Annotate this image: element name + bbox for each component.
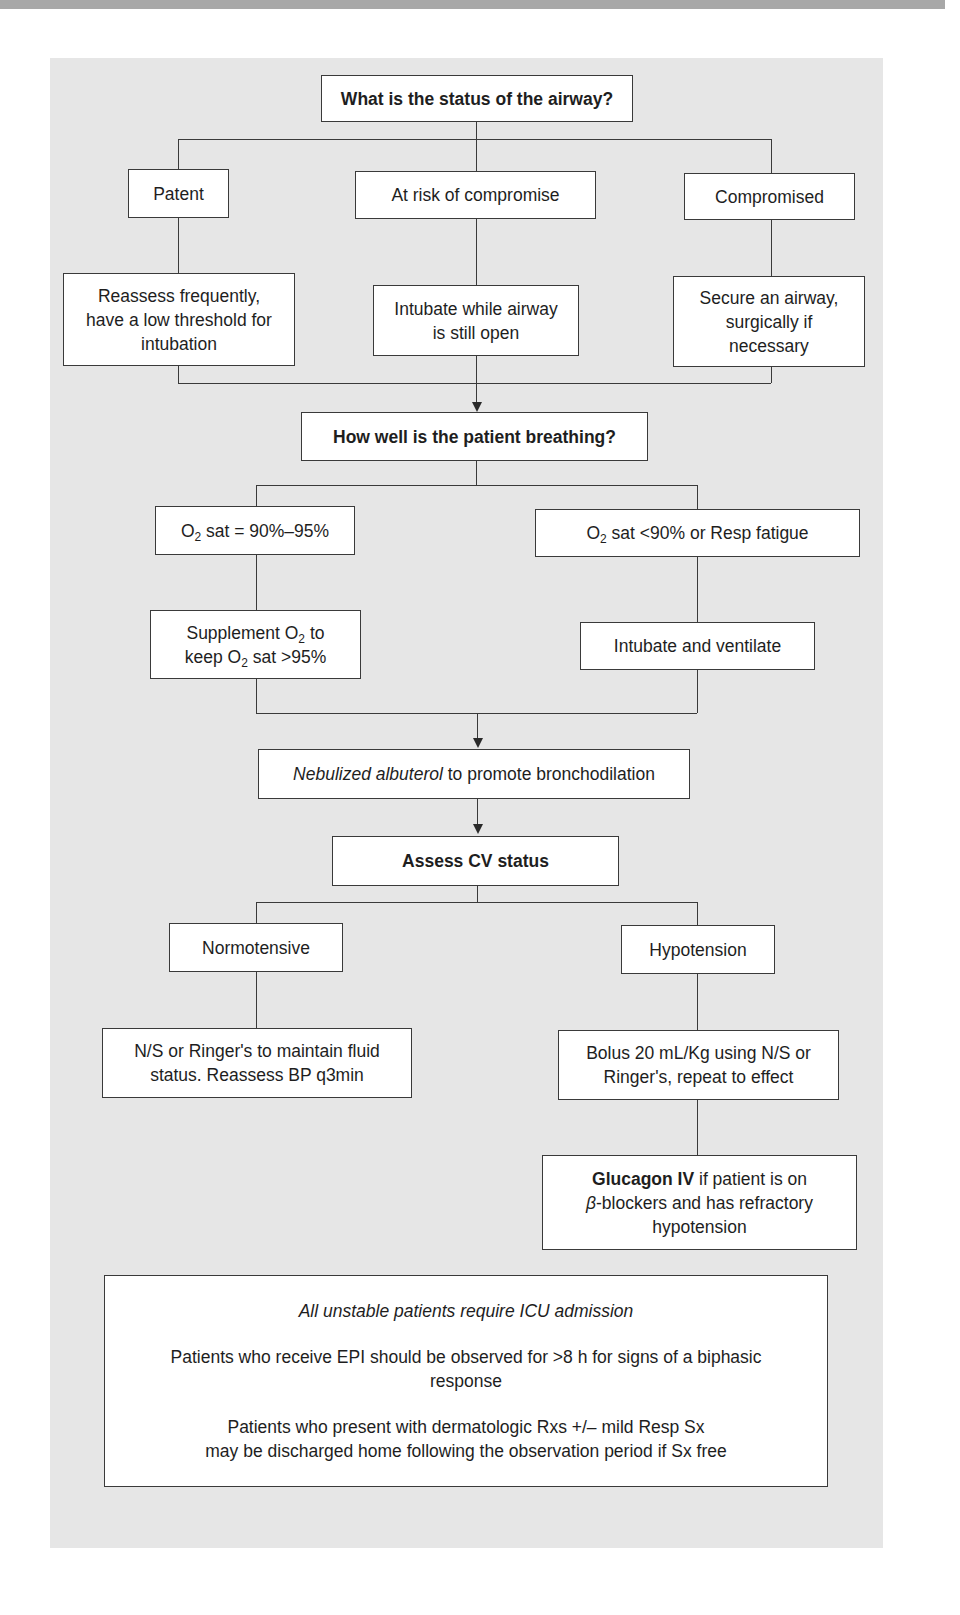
connector [771, 139, 772, 173]
connector [697, 670, 698, 713]
notes-box: All unstable patients require ICU admiss… [104, 1275, 828, 1487]
connector [256, 902, 257, 923]
connector [697, 974, 698, 1030]
followup-text: Glucagon IV if patient is on β-blockers … [586, 1167, 813, 1239]
status-text: Compromised [715, 185, 824, 209]
connector [256, 972, 257, 1028]
cv-question-box: Assess CV status [332, 836, 619, 886]
connector [476, 139, 477, 171]
breathing-status-severe: O2 sat <90% or Resp fatigue [535, 509, 860, 557]
airway-status-compromised: Compromised [684, 173, 855, 220]
status-text: Hypotension [649, 938, 746, 962]
breathing-action-intubate: Intubate and ventilate [580, 622, 815, 670]
airway-action-at-risk: Intubate while airway is still open [373, 285, 579, 356]
connector [476, 461, 477, 485]
action-text: Supplement O2 to keep O2 sat >95% [185, 621, 326, 669]
breathing-status-moderate: O2 sat = 90%–95% [155, 506, 355, 555]
top-border-band [0, 0, 945, 9]
connector [697, 485, 698, 509]
bronchodilation-box: Nebulized albuterol to promote bronchodi… [258, 749, 690, 799]
connector [178, 383, 771, 384]
connector [476, 356, 477, 403]
cv-action-normotensive: N/S or Ringer's to maintain fluid status… [102, 1028, 412, 1098]
connector [697, 1100, 698, 1155]
connector [256, 485, 697, 486]
bronchodilation-text: Nebulized albuterol to promote bronchodi… [293, 762, 655, 786]
connector [256, 555, 257, 610]
note-discharge-line2: may be discharged home following the obs… [105, 1439, 827, 1463]
airway-action-compromised: Secure an airway, surgically if necessar… [673, 276, 865, 367]
connector [476, 122, 477, 139]
status-text: Normotensive [202, 936, 310, 960]
connector [256, 902, 697, 903]
note-epi: Patients who receive EPI should be obser… [166, 1345, 766, 1393]
connector [178, 139, 179, 169]
action-text: Reassess frequently, have a low threshol… [79, 284, 279, 356]
cv-action-hypotension: Bolus 20 mL/Kg using N/S or Ringer's, re… [558, 1030, 839, 1100]
connector [477, 799, 478, 825]
breathing-question-box: How well is the patient breathing? [301, 412, 648, 461]
cv-status-hypotension: Hypotension [621, 925, 775, 974]
connector [178, 366, 179, 383]
connector [256, 485, 257, 506]
cv-question-text: Assess CV status [402, 849, 549, 873]
airway-action-patent: Reassess frequently, have a low threshol… [63, 273, 295, 366]
status-text: At risk of compromise [391, 183, 559, 207]
connector [178, 218, 179, 273]
airway-status-patent: Patent [128, 169, 229, 218]
airway-question-box: What is the status of the airway? [321, 75, 633, 122]
breathing-question-text: How well is the patient breathing? [333, 425, 616, 449]
status-text: O2 sat <90% or Resp fatigue [586, 521, 808, 545]
status-text: O2 sat = 90%–95% [181, 519, 329, 543]
note-icu: All unstable patients require ICU admiss… [105, 1299, 827, 1323]
arrow-down-icon [473, 824, 483, 834]
action-text: Intubate while airway is still open [386, 297, 566, 345]
connector [697, 902, 698, 925]
connector [477, 713, 478, 739]
arrow-down-icon [473, 738, 483, 748]
connector [771, 367, 772, 383]
airway-question-text: What is the status of the airway? [341, 87, 613, 111]
connector [178, 139, 771, 140]
connector [476, 219, 477, 285]
action-text: Bolus 20 mL/Kg using N/S or Ringer's, re… [574, 1041, 824, 1089]
connector [771, 220, 772, 276]
action-text: Secure an airway, surgically if necessar… [687, 286, 852, 358]
status-text: Patent [153, 182, 204, 206]
action-text: Intubate and ventilate [614, 634, 781, 658]
cv-followup-glucagon: Glucagon IV if patient is on β-blockers … [542, 1155, 857, 1250]
connector [256, 679, 257, 713]
note-discharge-line1: Patients who present with dermatologic R… [105, 1415, 827, 1439]
cv-status-normotensive: Normotensive [169, 923, 343, 972]
action-text: N/S or Ringer's to maintain fluid status… [117, 1039, 397, 1087]
airway-status-at-risk: At risk of compromise [355, 171, 596, 219]
arrow-down-icon [472, 402, 482, 412]
connector [477, 886, 478, 902]
breathing-action-supplement: Supplement O2 to keep O2 sat >95% [150, 610, 361, 679]
connector [697, 557, 698, 622]
